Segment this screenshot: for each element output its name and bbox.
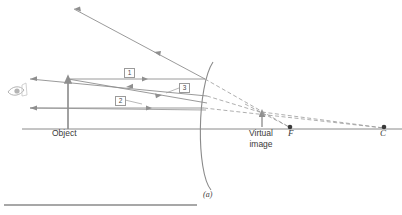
ray-2-leader <box>125 100 142 104</box>
ray-1-virtual-extension <box>205 79 291 128</box>
ray-3-reflected-arrowhead <box>126 84 133 89</box>
virtual-image-label-line2: image <box>249 139 272 149</box>
ray-3-incident-arrowhead <box>155 93 162 98</box>
figure-caption: (a) <box>203 190 212 199</box>
eye-icon <box>8 83 27 96</box>
convex-mirror <box>200 62 213 190</box>
ray-1-incident-arrowhead <box>142 77 148 82</box>
ray-1-reflected-arrowhead <box>154 51 161 56</box>
focal-point-label: F <box>288 128 294 138</box>
virtual-ray-image-to-c <box>262 112 384 128</box>
virtual-image-label: Virtual image <box>238 128 284 150</box>
ray-2-virtual-extension <box>204 108 384 128</box>
virtual-image-label-line1: Virtual <box>249 128 273 138</box>
ray-3-reflected-tip-arrowhead <box>30 76 37 81</box>
object-label: Object <box>52 128 77 138</box>
ray-3-label: 3 <box>179 83 190 93</box>
diagram-canvas <box>0 0 402 215</box>
ray-3-virtual-extension <box>207 96 263 113</box>
ray-diagram-figure: Object Virtual image F C (a) 1 2 3 <box>0 0 402 215</box>
ray-1-label: 1 <box>124 68 135 78</box>
ray-1-reflected <box>74 9 205 79</box>
center-of-curvature-label: C <box>380 128 386 138</box>
ray-2-label: 2 <box>115 96 126 106</box>
